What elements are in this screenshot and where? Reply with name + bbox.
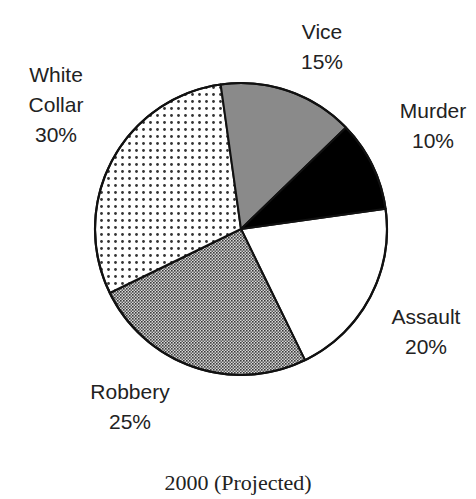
pie-slices (95, 83, 387, 375)
label-assault: Assault 20% (392, 302, 461, 362)
label-white-collar-name-1: White (29, 60, 84, 90)
label-vice-name: Vice (301, 17, 343, 47)
label-murder-name: Murder (400, 96, 467, 126)
label-murder-pct: 10% (400, 126, 467, 156)
chart-caption: 2000 (Projected) (164, 470, 311, 496)
label-murder: Murder 10% (400, 96, 467, 156)
label-vice: Vice 15% (301, 17, 343, 77)
label-white-collar: White Collar 30% (29, 60, 84, 150)
label-robbery: Robbery 25% (90, 377, 169, 437)
label-assault-pct: 20% (392, 332, 461, 362)
label-vice-pct: 15% (301, 47, 343, 77)
label-assault-name: Assault (392, 302, 461, 332)
label-white-collar-pct: 30% (29, 120, 84, 150)
label-white-collar-name-2: Collar (29, 90, 84, 120)
label-robbery-pct: 25% (90, 407, 169, 437)
label-robbery-name: Robbery (90, 377, 169, 407)
